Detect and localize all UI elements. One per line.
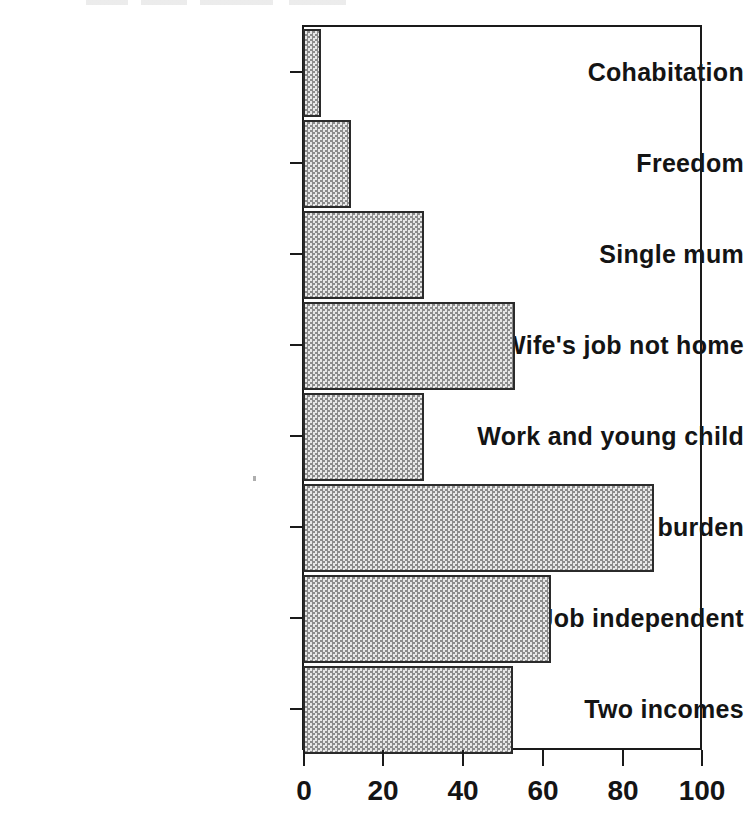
bar-children-not-burden[interactable] — [303, 484, 654, 572]
bar-chart-figure: Cohabitation Freedom Single mum Wife's j… — [0, 0, 744, 819]
bar-work-and-young-child[interactable] — [303, 393, 424, 481]
scan-speck — [253, 476, 256, 481]
scan-artifact — [86, 0, 346, 5]
x-tick-label-80: 80 — [607, 775, 638, 807]
x-tick-label-60: 60 — [527, 775, 558, 807]
x-axis-tick — [542, 750, 544, 766]
bar-cohabitation[interactable] — [303, 29, 321, 117]
bar-single-mum[interactable] — [303, 211, 424, 299]
x-axis-tick — [622, 750, 624, 766]
plot-area — [303, 25, 702, 750]
bar-wifes-job-not-home[interactable] — [303, 302, 515, 390]
x-axis-tick — [701, 750, 703, 766]
x-tick-label-0: 0 — [296, 775, 312, 807]
x-tick-label-100: 100 — [679, 775, 726, 807]
x-tick-label-40: 40 — [447, 775, 478, 807]
bar-two-incomes[interactable] — [303, 666, 513, 754]
x-axis-tick — [382, 750, 384, 766]
bar-freedom[interactable] — [303, 120, 351, 208]
x-tick-label-20: 20 — [367, 775, 398, 807]
bar-job-independent[interactable] — [303, 575, 551, 663]
x-axis-tick — [303, 750, 305, 766]
x-axis-tick — [462, 750, 464, 766]
